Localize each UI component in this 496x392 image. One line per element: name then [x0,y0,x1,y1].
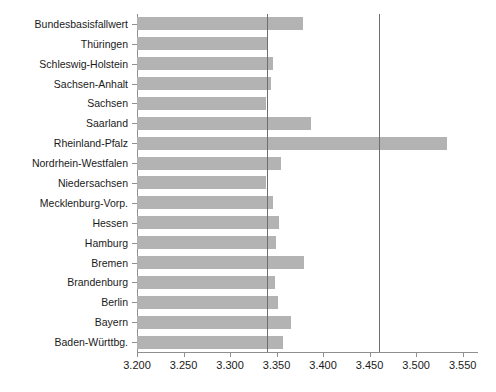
x-tick-label: 3.250 [170,359,198,372]
bar [137,256,304,269]
bar [137,117,311,130]
x-tick-mark [137,352,138,357]
bar-row: Sachsen [137,94,478,114]
category-label: Hamburg [85,237,128,249]
x-tick-label: 3.200 [123,359,151,372]
bar-row: Nordrhein-Westfalen [137,153,478,173]
category-label: Baden-Württbg. [54,336,128,348]
x-tick-mark [230,352,231,357]
bar [137,236,276,249]
category-label: Thüringen [81,38,128,50]
bundesbasisfallwert-reference [267,14,268,352]
bar [137,196,273,209]
bar [137,157,281,170]
bar [137,37,267,50]
bar-row: Rheinland-Pfalz [137,133,478,153]
x-tick-mark [416,352,417,357]
bar-row: Thüringen [137,34,478,54]
x-tick-label: 3.550 [449,359,477,372]
category-label: Rheinland-Pfalz [54,137,128,149]
bar-row: Schleswig-Holstein [137,54,478,74]
category-label: Mecklenburg-Vorp. [40,197,128,209]
bar-row: Hessen [137,213,478,233]
x-tick-mark [370,352,371,357]
x-tick-mark [184,352,185,357]
category-label: Hessen [92,217,128,229]
category-label: Niedersachsen [58,177,128,189]
bar-row: Bundesbasisfallwert [137,14,478,34]
x-tick-mark [463,352,464,357]
bar-chart: BundesbasisfallwertThüringenSchleswig-Ho… [0,0,496,392]
category-label: Brandenburg [67,276,128,288]
x-tick-mark [277,352,278,357]
x-tick-label: 3.450 [356,359,384,372]
category-label: Bundesbasisfallwert [35,18,128,30]
bar-row: Brandenburg [137,272,478,292]
x-tick-label: 3.300 [216,359,244,372]
category-label: Sachsen-Anhalt [54,78,128,90]
bar-row: Sachsen-Anhalt [137,74,478,94]
bar-row: Hamburg [137,233,478,253]
bar-row: Mecklenburg-Vorp. [137,193,478,213]
bar [137,336,283,349]
bar [137,57,273,70]
bar [137,316,291,329]
category-label: Bayern [95,316,128,328]
category-label: Sachsen [87,97,128,109]
bar [137,17,303,30]
x-tick-label: 3.400 [309,359,337,372]
bar [137,296,278,309]
category-label: Nordrhein-Westfalen [32,157,128,169]
bar-row: Niedersachsen [137,173,478,193]
bar [137,137,447,150]
bar-row: Berlin [137,292,478,312]
bar [137,77,271,90]
bar-rows: BundesbasisfallwertThüringenSchleswig-Ho… [137,14,478,352]
category-label: Schleswig-Holstein [39,58,128,70]
bar [137,216,279,229]
bar-row: Baden-Württbg. [137,332,478,352]
bar [137,176,266,189]
category-label: Bremen [91,257,128,269]
category-label: Saarland [86,117,128,129]
plot-area: BundesbasisfallwertThüringenSchleswig-Ho… [137,14,478,352]
category-label: Berlin [101,296,128,308]
x-tick-mark [323,352,324,357]
bar [137,97,266,110]
bar [137,276,275,289]
x-tick-label: 3.350 [263,359,291,372]
x-axis-ticks: 3.2003.2503.3003.3503.4003.4503.5003.550 [137,352,478,390]
x-tick-label: 3.500 [402,359,430,372]
bar-row: Bayern [137,312,478,332]
upper-reference [379,14,380,352]
bar-row: Saarland [137,113,478,133]
bar-row: Bremen [137,253,478,273]
